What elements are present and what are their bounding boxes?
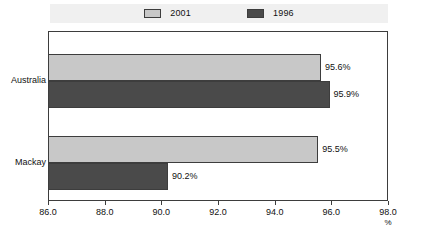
x-tick-label-94.0: 94.0 [266,208,284,217]
legend-label-1996: 1996 [273,9,294,18]
x-tick-label-88.0: 88.0 [96,208,114,217]
legend-entry-2001: 2001 [144,9,191,18]
plot-area [48,31,388,201]
category-label-mackay: Mackay [15,158,46,167]
x-tick-label-98.0: 98.0 [379,208,397,217]
x-tick-label-96.0: 96.0 [323,208,341,217]
legend-entry-1996: 1996 [247,9,294,18]
bar-value-mackay-2001: 95.5% [322,145,348,154]
bar-value-australia-2001: 95.6% [325,63,351,72]
x-tick-label-90.0: 90.0 [153,208,171,217]
legend-label-2001: 2001 [170,9,191,18]
x-tick-86.0 [48,201,49,205]
chart-legend: 2001 1996 [50,4,388,23]
legend-swatch-2001 [144,9,161,18]
x-tick-label-86.0: 86.0 [39,208,57,217]
bar-australia-2001 [49,54,321,81]
bar-australia-1996 [49,81,330,108]
x-tick-90.0 [161,201,162,205]
x-tick-label-92.0: 92.0 [209,208,227,217]
category-label-australia: Australia [11,76,46,85]
bar-chart: 2001 1996 95.6%95.9%Australia95.5%90.2%M… [0,0,430,241]
bar-mackay-2001 [49,136,318,163]
x-tick-98.0 [388,201,389,205]
bar-mackay-1996 [49,163,168,190]
x-axis-unit-label: % [384,219,391,227]
legend-swatch-1996 [247,9,264,18]
bar-value-australia-1996: 95.9% [334,90,360,99]
plot-inner [49,32,387,200]
bar-value-mackay-1996: 90.2% [172,172,198,181]
x-tick-94.0 [275,201,276,205]
x-tick-96.0 [331,201,332,205]
x-tick-92.0 [218,201,219,205]
x-tick-88.0 [105,201,106,205]
